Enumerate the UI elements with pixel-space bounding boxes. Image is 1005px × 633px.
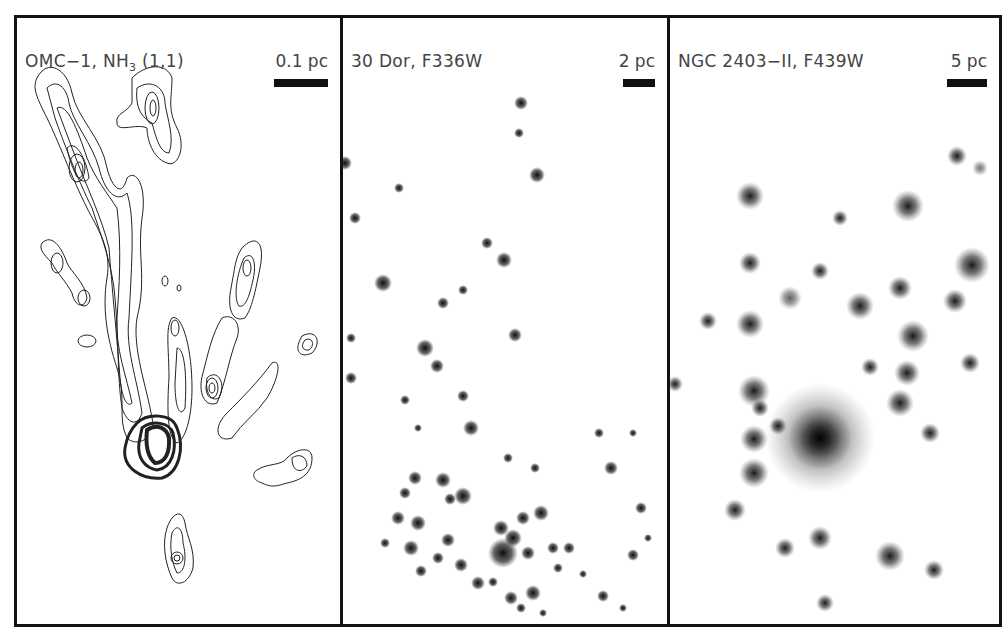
scale-bar-line bbox=[623, 79, 655, 87]
panel-30dor: 30 Dor, F336W 2 pc bbox=[340, 18, 667, 624]
scale-label: 0.1 pc bbox=[275, 51, 328, 71]
star-field bbox=[343, 18, 667, 624]
panel-ngc2403: NGC 2403−II, F439W 5 pc bbox=[667, 18, 999, 624]
scale-bar-line bbox=[274, 79, 328, 87]
panel-title: NGC 2403−II, F439W bbox=[678, 51, 864, 71]
panel-title: OMC−1, NH3 (1,1) bbox=[25, 51, 184, 74]
scale-bar: 5 pc bbox=[947, 51, 987, 87]
panel-omc1: OMC−1, NH3 (1,1) 0.1 pc bbox=[17, 18, 340, 624]
scale-bar-line bbox=[947, 79, 987, 87]
figure-frame: OMC−1, NH3 (1,1) 0.1 pc bbox=[14, 15, 1002, 627]
scale-label: 2 pc bbox=[619, 51, 655, 71]
contour-map bbox=[17, 18, 340, 624]
scale-bar: 2 pc bbox=[619, 51, 655, 87]
panel-title: 30 Dor, F336W bbox=[351, 51, 482, 71]
star-field bbox=[670, 18, 999, 624]
scale-bar: 0.1 pc bbox=[274, 51, 328, 87]
scale-label: 5 pc bbox=[951, 51, 987, 71]
